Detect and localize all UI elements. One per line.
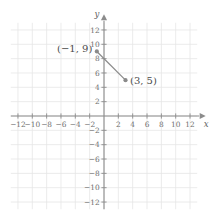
x-axis-label: x	[204, 119, 209, 129]
y-tick-label: 8	[95, 54, 100, 63]
x-tick-label: −8	[41, 120, 52, 129]
x-tick-label: 6	[145, 120, 150, 129]
data-point-label: (−1, 9)	[57, 43, 92, 54]
y-tick-label: −6	[89, 155, 100, 164]
y-tick-label: 6	[95, 69, 100, 78]
data-point	[95, 49, 99, 53]
x-tick-label: 12	[185, 120, 194, 129]
y-tick-label: −4	[89, 140, 100, 149]
y-tick-label: 12	[90, 26, 99, 35]
data-point-labels: (−1, 9)(3, 5)	[57, 43, 157, 86]
axes	[11, 14, 206, 209]
y-tick-label: −10	[84, 183, 100, 192]
y-tick-label: −8	[89, 169, 100, 178]
x-tick-label: −4	[70, 120, 81, 129]
y-tick-label: −12	[84, 198, 100, 207]
coordinate-plane-svg: −12−10−8−6−4−224681012 −12−10−8−6−4−2246…	[0, 0, 220, 222]
segment	[97, 51, 126, 80]
data-point	[123, 78, 127, 82]
x-tick-label: 4	[130, 120, 135, 129]
data-point-label: (3, 5)	[130, 75, 157, 86]
x-tick-label: 8	[159, 120, 164, 129]
x-tick-label: −10	[24, 120, 40, 129]
y-axis-label: y	[94, 9, 100, 19]
x-axis-tick-labels: −12−10−8−6−4−224681012	[10, 120, 195, 129]
line-segments	[97, 51, 126, 80]
x-tick-label: −6	[56, 120, 67, 129]
x-tick-label: 10	[171, 120, 181, 129]
y-tick-label: −2	[89, 126, 100, 135]
y-axis-arrow-icon	[101, 14, 107, 20]
x-tick-label: 2	[116, 120, 121, 129]
y-tick-label: 2	[95, 97, 100, 106]
x-tick-label: −12	[10, 120, 26, 129]
y-tick-label: 4	[95, 83, 100, 92]
coordinate-plane-figure: −12−10−8−6−4−224681012 −12−10−8−6−4−2246…	[0, 0, 220, 222]
